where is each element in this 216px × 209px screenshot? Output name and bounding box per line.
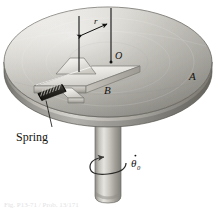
- theta-overdot: [134, 155, 136, 157]
- slider-label: B: [104, 84, 111, 96]
- radius-label: r: [94, 16, 98, 26]
- mechanics-figure-diagram: Spring r O B A θ 0: [0, 0, 216, 209]
- center-dot: [110, 61, 113, 64]
- disk-top-sheen: [4, 7, 212, 117]
- center-label: O: [115, 50, 122, 61]
- disk-label: A: [188, 70, 196, 82]
- slider-cross-bottom-front: [68, 98, 84, 103]
- angular-rate-label: θ 0: [131, 155, 141, 171]
- theta-subscript: 0: [137, 164, 141, 171]
- figure-caption: Fig. P13-71 / Prob. 13/171: [4, 201, 154, 209]
- figure-root: Spring r O B A θ 0: [0, 0, 216, 209]
- spring-label: Spring: [16, 130, 48, 144]
